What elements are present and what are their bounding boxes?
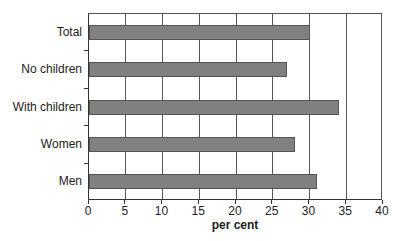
x-tick-label: 25 xyxy=(265,204,278,218)
y-tick xyxy=(84,125,88,126)
plot-area xyxy=(88,13,382,200)
x-tick-label: 10 xyxy=(155,204,168,218)
y-tick xyxy=(84,88,88,89)
bar-chart: TotalNo childrenWith childrenWomenMen 05… xyxy=(0,0,409,241)
category-label: Men xyxy=(59,174,82,188)
x-tick-label: 0 xyxy=(85,204,92,218)
x-tick-label: 35 xyxy=(339,204,352,218)
category-label: With children xyxy=(13,100,82,114)
x-axis-label: per cent xyxy=(212,218,259,232)
bar-total xyxy=(89,25,310,40)
bar-no-children xyxy=(89,62,287,77)
x-tick-label: 20 xyxy=(228,204,241,218)
category-label: Women xyxy=(41,137,82,151)
y-tick xyxy=(84,163,88,164)
x-tick-label: 30 xyxy=(302,204,315,218)
bar-men xyxy=(89,174,317,189)
x-tick-label: 40 xyxy=(375,204,388,218)
y-tick xyxy=(84,50,88,51)
x-tick-label: 5 xyxy=(121,204,128,218)
bar-women xyxy=(89,137,295,152)
category-label: No children xyxy=(21,62,82,76)
category-label: Total xyxy=(57,25,82,39)
gridline xyxy=(346,14,347,199)
bar-with-children xyxy=(89,100,339,115)
x-tick-label: 15 xyxy=(192,204,205,218)
